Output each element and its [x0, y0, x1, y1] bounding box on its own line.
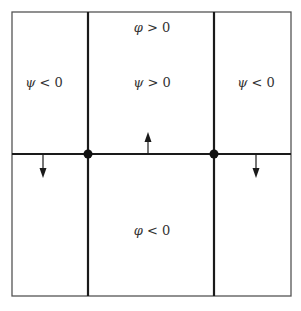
psi-symbol: ψ	[237, 75, 247, 90]
arrow-down-left-icon	[40, 154, 47, 178]
relation-text: > 0	[143, 20, 170, 35]
junction-node-left	[84, 150, 93, 159]
phi-symbol: φ	[134, 223, 143, 238]
psi-symbol: ψ	[25, 75, 35, 90]
relation-text: > 0	[143, 75, 170, 90]
relation-text: < 0	[35, 75, 62, 90]
arrow-down-right-icon	[253, 154, 260, 178]
diagram-canvas	[0, 0, 301, 311]
relation-text: < 0	[247, 75, 274, 90]
junction-node-right	[210, 150, 219, 159]
label-psi-negative-right: ψ < 0	[237, 76, 275, 89]
relation-text: < 0	[143, 223, 170, 238]
label-phi-negative: φ < 0	[134, 224, 171, 237]
label-phi-positive: φ > 0	[134, 21, 171, 34]
label-psi-negative-left: ψ < 0	[25, 76, 63, 89]
label-psi-positive: ψ > 0	[133, 76, 171, 89]
phi-symbol: φ	[134, 20, 143, 35]
arrow-up-icon	[145, 132, 152, 154]
phase-region-diagram: φ > 0 ψ > 0 ψ < 0 ψ < 0 φ < 0	[0, 0, 301, 311]
psi-symbol: ψ	[133, 75, 143, 90]
